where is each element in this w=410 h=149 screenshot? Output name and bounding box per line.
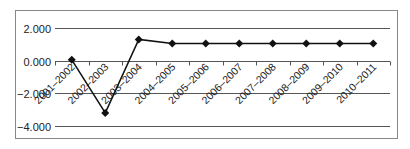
y-tick-label: −4.000 — [17, 121, 51, 133]
y-tick-label: 0.000 — [23, 56, 51, 68]
y-tick-label: 2.000 — [23, 23, 51, 35]
line-chart: 2.0000.000−2.000−4.000 2001–20022002–200… — [0, 0, 410, 149]
chart-border — [16, 11, 398, 139]
